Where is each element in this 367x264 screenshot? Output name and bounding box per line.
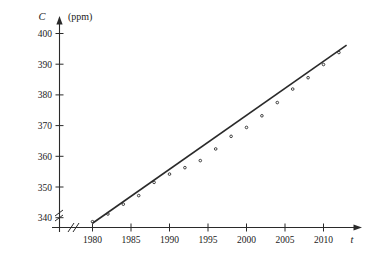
x-axis bbox=[52, 224, 362, 230]
data-point bbox=[276, 101, 279, 104]
y-tick-label: 400 bbox=[38, 29, 53, 39]
chart-screenshot: 400 390 380 370 360 350 340 1980 1985 19… bbox=[0, 0, 367, 264]
x-tick-label: 1995 bbox=[199, 235, 218, 245]
data-point bbox=[122, 203, 125, 206]
data-point bbox=[322, 63, 325, 66]
y-axis-label: C bbox=[38, 11, 46, 22]
x-tick-label: 2000 bbox=[237, 235, 256, 245]
data-point bbox=[199, 159, 202, 162]
x-tick-labels: 1980 1985 1990 1995 2000 2005 2010 bbox=[83, 235, 333, 245]
scatter-plot: 400 390 380 370 360 350 340 1980 1985 19… bbox=[0, 0, 367, 264]
data-point bbox=[153, 181, 156, 184]
data-point bbox=[137, 194, 140, 197]
x-tick-label: 2005 bbox=[276, 235, 295, 245]
y-axis bbox=[56, 16, 62, 232]
data-point bbox=[184, 166, 187, 169]
data-point bbox=[338, 51, 341, 54]
y-tick-label: 370 bbox=[38, 121, 53, 131]
x-tick-label: 1990 bbox=[160, 235, 179, 245]
y-tick-label: 360 bbox=[38, 152, 53, 162]
x-tick-label: 1985 bbox=[122, 235, 141, 245]
x-tick-label: 2010 bbox=[314, 235, 333, 245]
data-point bbox=[291, 88, 294, 91]
data-point bbox=[261, 114, 264, 117]
data-point bbox=[307, 76, 310, 79]
x-tick-label: 1980 bbox=[83, 235, 102, 245]
y-tick-label: 340 bbox=[38, 213, 53, 223]
x-axis-label: t bbox=[351, 234, 355, 245]
y-tick-label: 390 bbox=[38, 60, 53, 70]
data-point bbox=[91, 220, 94, 223]
y-tick-label: 380 bbox=[38, 90, 53, 100]
regression-line bbox=[93, 45, 347, 223]
data-point bbox=[245, 126, 248, 129]
data-point bbox=[214, 148, 217, 151]
y-axis-unit-label: (ppm) bbox=[68, 11, 92, 23]
data-point bbox=[107, 213, 110, 216]
data-point bbox=[168, 173, 171, 176]
data-point bbox=[230, 135, 233, 138]
y-tick-label: 350 bbox=[38, 183, 53, 193]
y-tick-labels: 400 390 380 370 360 350 340 bbox=[38, 29, 53, 223]
